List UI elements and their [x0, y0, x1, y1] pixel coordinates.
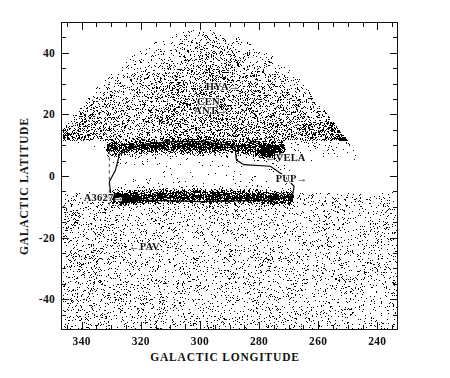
annotation-hya: HYA→ [206, 81, 240, 92]
x-tick-bottom [333, 325, 334, 329]
x-tick-top [200, 23, 201, 30]
x-tick-top [185, 23, 186, 27]
y-tick-label: 20 [29, 108, 55, 120]
x-tick-top [377, 23, 378, 30]
y-tick-right [390, 114, 397, 115]
x-tick-label: 260 [309, 335, 327, 347]
y-tick-right [390, 299, 397, 300]
y-tick-left [62, 268, 66, 269]
figure-container: 34032030028026024040200-20-40 HYA→CENANT… [0, 0, 450, 378]
x-tick-bottom [82, 322, 83, 329]
x-tick-bottom [126, 325, 127, 329]
x-tick-bottom [156, 325, 157, 329]
y-tick-right [393, 130, 397, 131]
x-tick-top [82, 23, 83, 30]
x-tick-top [303, 23, 304, 27]
y-axis-title: GALACTIC LATITUDE [18, 117, 30, 255]
scatter-canvas [62, 23, 398, 330]
y-tick-right [393, 207, 397, 208]
x-tick-top [111, 23, 112, 27]
x-tick-top [96, 23, 97, 27]
y-tick-left [62, 191, 66, 192]
x-tick-bottom [318, 322, 319, 329]
x-tick-bottom [111, 325, 112, 329]
x-tick-label: 280 [250, 335, 268, 347]
x-tick-label: 320 [132, 335, 150, 347]
y-tick-label: -20 [29, 232, 55, 244]
annotation-pav: ←PAV [129, 241, 160, 252]
x-tick-top [318, 23, 319, 30]
annotation-a3627: A3627→ [84, 192, 124, 203]
annotation-ant: ANT→ [194, 105, 227, 116]
x-tick-bottom [230, 325, 231, 329]
x-tick-label: 340 [73, 335, 91, 347]
x-tick-bottom [215, 325, 216, 329]
x-tick-top [156, 23, 157, 27]
x-tick-top [274, 23, 275, 27]
y-tick-label: -40 [29, 293, 55, 305]
y-tick-left [62, 68, 66, 69]
y-tick-right [393, 315, 397, 316]
y-tick-left [62, 222, 66, 223]
x-tick-bottom [244, 325, 245, 329]
x-tick-bottom [303, 325, 304, 329]
x-tick-top [348, 23, 349, 27]
y-tick-right [393, 161, 397, 162]
y-tick-left [62, 253, 66, 254]
y-tick-right [393, 99, 397, 100]
x-tick-bottom [289, 325, 290, 329]
x-tick-bottom [96, 325, 97, 329]
y-tick-right [393, 84, 397, 85]
x-tick-bottom [259, 322, 260, 329]
y-tick-right [390, 176, 397, 177]
y-tick-left [62, 161, 66, 162]
y-tick-left [62, 37, 66, 38]
y-tick-right [393, 284, 397, 285]
x-tick-top [67, 23, 68, 27]
y-tick-left [62, 315, 66, 316]
annotation-pup: PUP→ [276, 173, 308, 184]
y-tick-left [62, 284, 66, 285]
y-tick-left [62, 114, 69, 115]
x-tick-top [126, 23, 127, 27]
x-tick-top [289, 23, 290, 27]
x-tick-top [230, 23, 231, 27]
y-tick-left [62, 130, 66, 131]
y-tick-left [62, 145, 66, 146]
y-tick-right [393, 145, 397, 146]
y-tick-left [62, 299, 69, 300]
x-tick-label: 240 [368, 335, 386, 347]
y-tick-left [62, 84, 66, 85]
y-tick-right [393, 68, 397, 69]
annotation-vela: ←VELA [265, 152, 306, 163]
x-tick-top [392, 23, 393, 27]
y-tick-right [393, 268, 397, 269]
x-tick-bottom [170, 325, 171, 329]
x-tick-top [363, 23, 364, 27]
y-tick-label: 0 [29, 170, 55, 182]
y-tick-right [393, 253, 397, 254]
x-tick-bottom [392, 325, 393, 329]
y-tick-left [62, 176, 69, 177]
plot-area [61, 22, 398, 330]
x-tick-bottom [348, 325, 349, 329]
y-tick-left [62, 207, 66, 208]
y-tick-right [393, 191, 397, 192]
y-tick-label: 40 [29, 47, 55, 59]
x-tick-top [170, 23, 171, 27]
y-tick-left [62, 53, 69, 54]
x-tick-bottom [274, 325, 275, 329]
y-tick-right [393, 222, 397, 223]
x-tick-top [244, 23, 245, 27]
x-tick-top [259, 23, 260, 30]
x-tick-bottom [141, 322, 142, 329]
x-tick-bottom [67, 325, 68, 329]
x-tick-label: 300 [191, 335, 209, 347]
x-axis-title: GALACTIC LONGITUDE [0, 351, 450, 363]
x-tick-bottom [363, 325, 364, 329]
y-tick-right [390, 53, 397, 54]
y-tick-left [62, 99, 66, 100]
x-tick-bottom [377, 322, 378, 329]
y-tick-left [62, 238, 69, 239]
y-tick-right [390, 238, 397, 239]
